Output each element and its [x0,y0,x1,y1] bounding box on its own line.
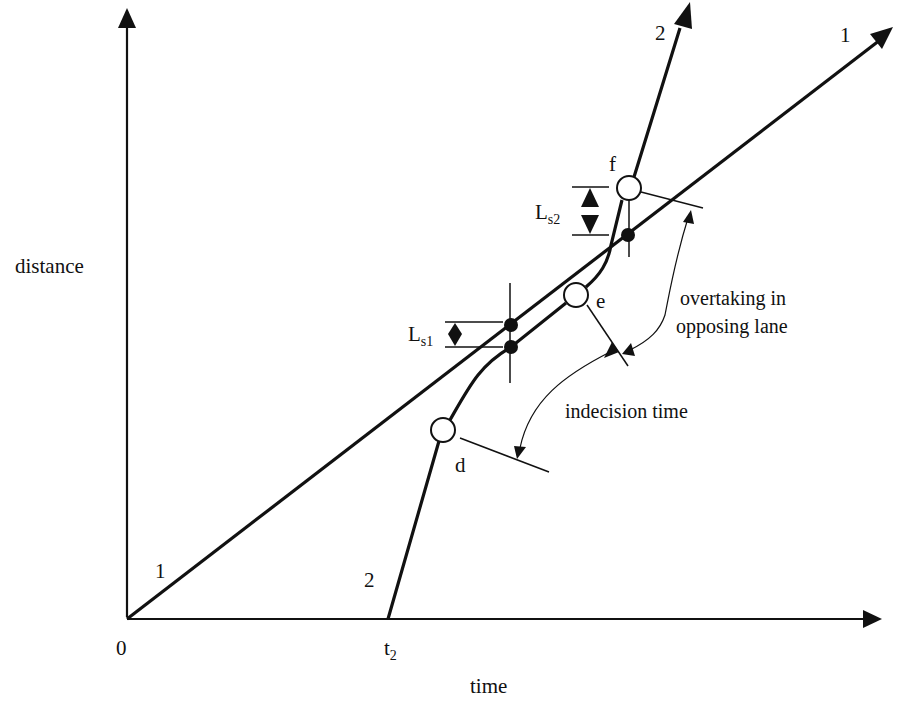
trajectory-1-end-label: 1 [840,23,851,47]
point-e-label: e [596,289,605,313]
e-tick [587,305,628,366]
d-tick [460,438,549,472]
y-axis [118,8,136,617]
y-axis-arrow-icon [118,8,136,28]
point-d-marker [431,418,455,442]
f-tick [641,192,703,208]
overtaking-arrowhead-bottom-icon [622,343,635,356]
ls2-up-arrow-icon [581,188,599,207]
trajectory-2-start-label: 2 [364,568,375,592]
overtaking-label-line2: opposing lane [676,315,788,338]
x-axis-arrow-icon [863,610,882,628]
x-axis-label: time [470,674,507,698]
trajectory-2 [388,2,692,619]
ls2-down-arrow-icon [581,215,599,234]
trajectory-2-end-label: 2 [655,21,666,45]
ls1-lower-dot [504,340,518,354]
origin-label: 0 [116,636,127,660]
point-d-label: d [455,453,466,477]
ls2-dot [621,228,635,242]
point-f-label: f [609,152,616,176]
y-axis-label: distance [15,254,84,278]
indecision-arrowhead-top-icon [604,342,619,358]
indecision-arrowhead-bottom-icon [514,446,526,459]
time-distance-diagram: distance time 0 t2 1 1 2 2 d e f Ls1 Ls2… [0,0,901,711]
ls1-double-arrow-icon [448,323,462,346]
indecision-time-label: indecision time [565,400,688,422]
point-f-marker [617,176,641,200]
x-axis [127,610,882,628]
ls1-upper-dot [504,318,518,332]
overtaking-label-line1: overtaking in [680,287,786,310]
trajectory-1-start-label: 1 [155,559,166,583]
ls2-label: Ls2 [535,200,560,227]
trajectory-2-arrow-icon [674,2,692,29]
overtaking-arrowhead-top-icon [683,210,694,224]
t2-label: t2 [384,636,397,663]
ls1-label: Ls1 [408,322,433,349]
point-e-marker [564,283,588,307]
